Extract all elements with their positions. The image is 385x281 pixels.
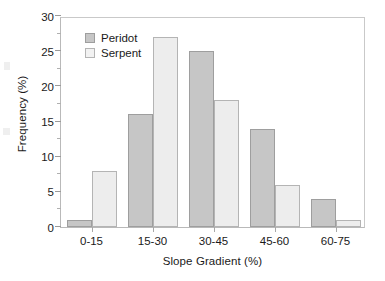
scan-artifact (3, 128, 10, 135)
x-tick-label: 60-75 (321, 235, 350, 247)
x-tick-mark (153, 227, 154, 232)
bar-serpent-0-15 (92, 171, 117, 227)
y-tick-label: 20 (41, 81, 54, 93)
x-tick-mark (275, 227, 276, 232)
bar-peridot-60-75 (311, 199, 336, 227)
y-tick-mark (55, 156, 61, 157)
y-tick-mark (55, 226, 61, 227)
bar-peridot-45-60 (250, 129, 275, 227)
y-minor-tick-mark (57, 173, 61, 174)
legend-swatch-serpent (85, 48, 95, 58)
bar-peridot-30-45 (189, 51, 214, 227)
bar-serpent-45-60 (275, 185, 300, 227)
bar-peridot-15-30 (128, 114, 153, 227)
x-tick-label: 0-15 (80, 235, 103, 247)
bar-chart-figure: Frequency (%) 051015202530 0-1515-3030-4… (0, 0, 385, 281)
x-tick-label: 30-45 (199, 235, 228, 247)
y-tick-label: 15 (41, 116, 54, 128)
y-tick-label: 5 (48, 186, 54, 198)
y-tick-mark (55, 191, 61, 192)
y-minor-tick-mark (57, 68, 61, 69)
y-tick-label: 30 (41, 11, 54, 23)
y-tick-label: 0 (48, 222, 54, 234)
x-tick-label: 45-60 (260, 235, 289, 247)
x-axis-title: Slope Gradient (%) (60, 255, 365, 267)
y-minor-tick-mark (57, 103, 61, 104)
x-tick-label: 15-30 (138, 235, 167, 247)
legend-swatch-peridot (85, 33, 95, 43)
scan-artifact (4, 62, 10, 70)
chart-legend: PeridotSerpent (85, 30, 141, 60)
legend-label: Serpent (101, 47, 141, 59)
y-tick-label: 25 (41, 46, 54, 58)
bar-serpent-60-75 (336, 220, 361, 227)
plot-area: 051015202530 0-1515-3030-4545-6060-75 Pe… (60, 17, 365, 228)
x-tick-mark (214, 227, 215, 232)
y-tick-label: 10 (41, 151, 54, 163)
y-axis-title: Frequency (%) (16, 49, 28, 179)
legend-label: Peridot (101, 32, 137, 44)
y-tick-mark (55, 50, 61, 51)
x-tick-mark (92, 227, 93, 232)
y-tick-mark (55, 15, 61, 16)
y-minor-tick-mark (57, 138, 61, 139)
y-minor-tick-mark (57, 208, 61, 209)
legend-item-serpent: Serpent (85, 45, 141, 60)
bar-serpent-30-45 (214, 100, 239, 227)
y-minor-tick-mark (57, 33, 61, 34)
y-tick-mark (55, 121, 61, 122)
y-tick-mark (55, 85, 61, 86)
bar-serpent-15-30 (153, 37, 178, 227)
bar-peridot-0-15 (67, 220, 92, 227)
x-tick-mark (336, 227, 337, 232)
legend-item-peridot: Peridot (85, 30, 141, 45)
